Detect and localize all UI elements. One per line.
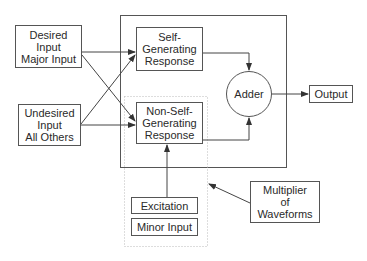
desired-input-box: Desired Input Major Input: [15, 25, 82, 68]
adder-node: Adder: [226, 71, 272, 117]
non-self-generating-response-box: Non-Self- Generating Response: [136, 102, 203, 144]
minor-input-box: Minor Input: [131, 218, 198, 236]
output-box: Output: [309, 85, 353, 103]
excitation-box: Excitation: [131, 197, 198, 214]
multiplier-of-waveforms-box: Multiplier of Waveforms: [250, 181, 320, 223]
self-generating-response-box: Self- Generating Response: [136, 27, 203, 71]
undesired-input-box: Undesired Input All Others: [18, 104, 81, 146]
